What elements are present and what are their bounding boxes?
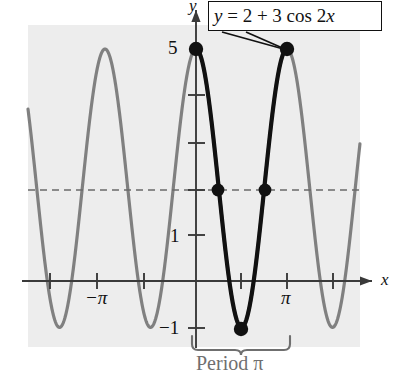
equation-body: = 2 + 3 cos 2 [222, 5, 326, 26]
period-annotation-label: Period π [196, 352, 263, 375]
point-max-at-pi [280, 42, 294, 56]
y-tick-label-neg1: −1 [159, 318, 179, 337]
y-tick-label-1: 1 [170, 226, 180, 245]
point-max-at-zero [189, 42, 203, 56]
equation-variable-x: x [326, 5, 334, 26]
x-axis-arrowhead [360, 276, 372, 285]
point-min-at-half-pi [234, 322, 248, 336]
y-axis-label: y [189, 0, 197, 14]
point-midline-right [259, 184, 272, 197]
x-axis-label: x [381, 271, 389, 288]
x-tick-label-pi: π [281, 288, 291, 307]
plot-canvas [0, 0, 410, 388]
graph-figure: y = 2 + 3 cos 2x y x 5 1 −1 −π π Period … [0, 0, 410, 388]
x-tick-label-neg-pi: −π [85, 288, 107, 307]
point-midline-left [212, 184, 225, 197]
y-tick-label-5: 5 [168, 38, 178, 57]
equation-callout-text: y = 2 + 3 cos 2x [214, 5, 335, 27]
